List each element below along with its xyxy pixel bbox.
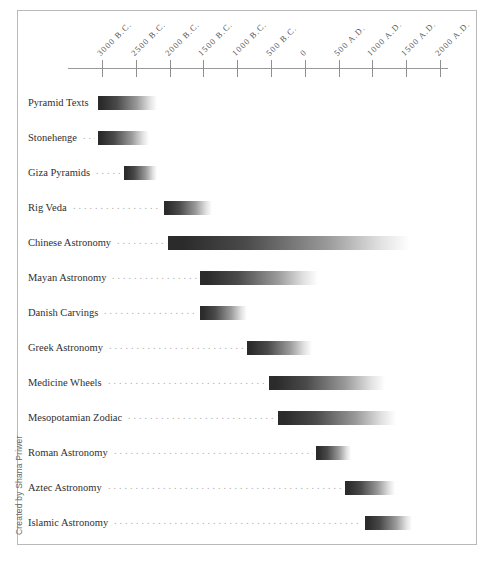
axis-tick-label-wrap: 500 A.D.	[339, 0, 340, 58]
timeline-row[interactable]: Giza Pyramids...........................…	[0, 162, 496, 197]
dot-leader: ........................................…	[104, 306, 197, 316]
axis-tick-label: 1500 A.D.	[399, 19, 438, 58]
timeline-row[interactable]: Greek Astronomy.........................…	[0, 337, 496, 372]
axis-tick	[372, 60, 373, 77]
timeline-row-label: Aztec Astronomy	[28, 482, 102, 493]
axis-tick-label-wrap: 2000 A.D.	[440, 0, 441, 58]
time-axis: 3000 B.C.2500 B.C.2000 B.C.1500 B.C.1000…	[0, 0, 496, 92]
timeline-row-label: Chinese Astronomy	[28, 237, 111, 248]
dot-leader: ........................................…	[108, 376, 266, 386]
timeline-row-label: Danish Carvings	[28, 307, 98, 318]
axis-tick-label-wrap: 1500 B.C.	[203, 0, 204, 58]
axis-tick-label: 2500 B.C.	[129, 19, 168, 58]
dot-leader: ........................................…	[108, 481, 342, 491]
timeline-row-label: Giza Pyramids	[28, 167, 90, 178]
timeline-rows: Pyramid TextsStonehenge.................…	[0, 92, 496, 547]
timeline-row-label: Mayan Astronomy	[28, 272, 106, 283]
dot-leader: ........................................…	[117, 236, 165, 246]
axis-tick-label-wrap: 1500 A.D.	[406, 0, 407, 58]
timeline-row-label: Islamic Astronomy	[28, 517, 108, 528]
axis-tick	[305, 60, 306, 77]
axis-tick	[203, 60, 204, 77]
dot-leader: ........................................…	[128, 411, 275, 421]
axis-tick	[237, 60, 238, 77]
axis-tick-label-wrap: 1000 B.C.	[237, 0, 238, 58]
timeline-row-label: Stonehenge	[28, 132, 77, 143]
axis-tick	[339, 60, 340, 77]
axis-tick-label-wrap: 500 B.C.	[271, 0, 272, 58]
timeline-chart: Created by Shana Priwer 3000 B.C.2500 B.…	[0, 0, 496, 562]
timeline-row[interactable]: Mayan Astronomy.........................…	[0, 267, 496, 302]
axis-tick	[170, 60, 171, 77]
axis-tick-label: 500 A.D.	[332, 23, 367, 58]
dot-leader: ........................................…	[114, 446, 313, 456]
timeline-bar[interactable]	[200, 271, 318, 285]
timeline-row-label: Medicine Wheels	[28, 377, 102, 388]
axis-tick-label: 1500 B.C.	[196, 19, 235, 58]
axis-tick-label-wrap: 0	[305, 0, 306, 58]
dot-leader: ........................................…	[96, 166, 121, 176]
timeline-row[interactable]: Rig Veda................................…	[0, 197, 496, 232]
axis-tick-label: 3000 B.C.	[95, 19, 134, 58]
axis-tick-label: 500 B.C.	[264, 23, 299, 58]
axis-tick-label-wrap: 2000 B.C.	[170, 0, 171, 58]
timeline-row[interactable]: Islamic Astronomy.......................…	[0, 512, 496, 547]
timeline-row-label: Rig Veda	[28, 202, 67, 213]
dot-leader: ........................................…	[83, 131, 95, 141]
axis-tick-label: 1000 B.C.	[230, 19, 269, 58]
axis-tick	[271, 60, 272, 77]
dot-leader: ........................................…	[73, 201, 161, 211]
timeline-row[interactable]: Chinese Astronomy.......................…	[0, 232, 496, 267]
timeline-row-label: Pyramid Texts	[28, 97, 89, 108]
timeline-row[interactable]: Roman Astronomy.........................…	[0, 442, 496, 477]
axis-line	[68, 68, 448, 69]
timeline-row[interactable]: Danish Carvings.........................…	[0, 302, 496, 337]
timeline-bar[interactable]	[168, 236, 411, 250]
timeline-bar[interactable]	[98, 96, 157, 110]
axis-tick-label: 1000 A.D.	[365, 19, 404, 58]
timeline-bar[interactable]	[278, 411, 396, 425]
timeline-bar[interactable]	[200, 306, 247, 320]
axis-tick	[406, 60, 407, 77]
timeline-row-label: Greek Astronomy	[28, 342, 103, 353]
axis-tick-label-wrap: 2500 B.C.	[136, 0, 137, 58]
axis-tick	[102, 60, 103, 77]
timeline-bar[interactable]	[98, 131, 149, 145]
timeline-bar[interactable]	[124, 166, 158, 180]
timeline-row[interactable]: Aztec Astronomy.........................…	[0, 477, 496, 512]
axis-tick-label: 2000 A.D.	[433, 19, 472, 58]
axis-tick-label: 2000 B.C.	[163, 19, 202, 58]
timeline-row[interactable]: Stonehenge..............................…	[0, 127, 496, 162]
timeline-bar[interactable]	[316, 446, 351, 460]
timeline-row[interactable]: Pyramid Texts	[0, 92, 496, 127]
dot-leader: ........................................…	[112, 271, 197, 281]
dot-leader: ........................................…	[109, 341, 244, 351]
timeline-row-label: Roman Astronomy	[28, 447, 108, 458]
axis-tick-label-wrap: 1000 A.D.	[372, 0, 373, 58]
timeline-row[interactable]: Mesopotamian Zodiac.....................…	[0, 407, 496, 442]
axis-tick-label-wrap: 3000 B.C.	[102, 0, 103, 58]
timeline-bar[interactable]	[247, 341, 312, 355]
timeline-bar[interactable]	[345, 481, 395, 495]
axis-tick	[136, 60, 137, 77]
timeline-bar[interactable]	[164, 201, 212, 215]
timeline-row[interactable]: Medicine Wheels.........................…	[0, 372, 496, 407]
dot-leader: ........................................…	[114, 516, 362, 526]
timeline-row-label: Mesopotamian Zodiac	[28, 412, 122, 423]
timeline-bar[interactable]	[365, 516, 412, 530]
axis-tick-label: 0	[298, 47, 309, 58]
axis-tick	[440, 60, 441, 77]
timeline-bar[interactable]	[269, 376, 385, 390]
